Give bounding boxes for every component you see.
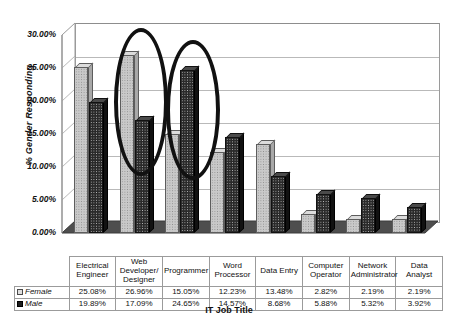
bar-side	[285, 171, 290, 233]
bar-face	[180, 70, 194, 233]
bar-female	[74, 67, 88, 233]
table-cell-female: 2.19%	[349, 286, 396, 298]
bar-male	[271, 176, 285, 233]
table-cell-female: 26.96%	[116, 286, 163, 298]
y-axis-tick-label: 30.00%	[0, 29, 56, 39]
table-column-header: Data Entry	[256, 257, 303, 287]
table-column-header: Programmer	[162, 257, 209, 287]
bar-series-container	[0, 0, 458, 258]
bar-face	[346, 219, 360, 233]
y-axis-tick-label: 20.00%	[0, 95, 56, 105]
bar-female	[256, 144, 270, 233]
bar-face	[225, 137, 239, 233]
data-table: Electrical EngineerWeb Developer/ Design…	[14, 256, 443, 311]
bar-side	[194, 66, 199, 233]
bar-face	[135, 120, 149, 233]
legend-row-female: Female	[15, 286, 70, 298]
table-cell-female: 2.82%	[302, 286, 349, 298]
table-column-header: Web Developer/ Designer	[116, 257, 163, 287]
bar-side	[149, 116, 154, 233]
bar-female	[392, 219, 406, 233]
bar-side	[375, 193, 380, 233]
chart-figure: % Gender Responding 30.00%25.00%20.00%15…	[0, 0, 458, 328]
bar-male	[89, 102, 103, 233]
bar-face	[256, 144, 270, 233]
y-axis-tick-label: 0.00%	[0, 227, 56, 237]
plot-area	[0, 0, 458, 258]
bar-female	[301, 214, 315, 233]
bar-female	[120, 55, 134, 233]
bar-face	[74, 67, 88, 233]
bar-side	[330, 190, 335, 233]
table-column-header: Computer Operator	[302, 257, 349, 287]
bar-female	[210, 152, 224, 233]
bar-male	[225, 137, 239, 233]
table-column-header: Network Administrator	[349, 257, 396, 287]
table-header-row: Electrical EngineerWeb Developer/ Design…	[15, 257, 443, 287]
legend-label-female: Female	[25, 287, 52, 296]
table-row-female: Female 25.08%26.96%15.05%12.23%13.48%2.8…	[15, 286, 443, 298]
table-column-header: Electrical Engineer	[69, 257, 116, 287]
table-column-header: Word Processor	[209, 257, 256, 287]
y-axis-tick-label: 10.00%	[0, 161, 56, 171]
table-cell-female: 25.08%	[69, 286, 116, 298]
bar-male	[135, 120, 149, 233]
table-cell-female: 13.48%	[256, 286, 303, 298]
bar-side	[239, 132, 244, 233]
table-cell-female: 12.23%	[209, 286, 256, 298]
bar-face	[361, 198, 375, 233]
y-axis-tick-label: 15.00%	[0, 128, 56, 138]
bar-face	[301, 214, 315, 233]
y-axis-tick-label: 5.00%	[0, 194, 56, 204]
bar-face	[392, 219, 406, 233]
bar-face	[271, 176, 285, 233]
bar-face	[316, 194, 330, 233]
bar-male	[407, 207, 421, 233]
bar-face	[89, 102, 103, 233]
table-cell-female: 2.19%	[396, 286, 443, 298]
bar-side	[103, 97, 108, 233]
bar-male	[361, 198, 375, 233]
bar-face	[407, 207, 421, 233]
x-axis-title: IT Job Title	[0, 305, 458, 315]
bar-male	[180, 70, 194, 233]
table-corner-cell	[15, 257, 70, 287]
table-column-header: Data Analyst	[396, 257, 443, 287]
bar-female	[165, 134, 179, 233]
legend-swatch-female-icon	[17, 289, 23, 295]
bar-male	[316, 194, 330, 233]
bar-face	[120, 55, 134, 233]
bar-face	[165, 134, 179, 233]
y-axis-tick-label: 25.00%	[0, 62, 56, 72]
bar-female	[346, 219, 360, 233]
table-cell-female: 15.05%	[162, 286, 209, 298]
bar-face	[210, 152, 224, 233]
